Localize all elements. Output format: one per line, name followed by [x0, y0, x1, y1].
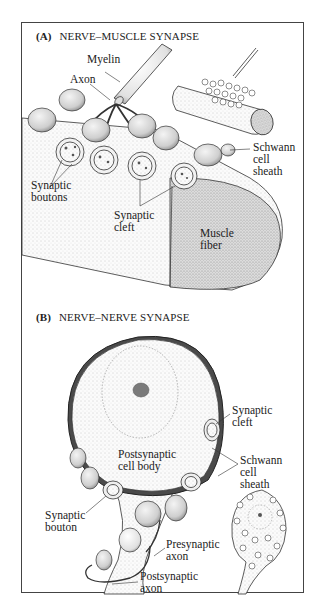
panel-a-heading: NERVE–MUSCLE SYNAPSE	[60, 30, 200, 42]
label-boutons-1: Synaptic	[31, 179, 71, 191]
label-schwann-b-1: Schwann	[240, 454, 282, 466]
label-schwann-b-3: sheath	[240, 478, 269, 490]
label-schwann-b-2: cell	[240, 466, 257, 478]
label-cleft-b-2: cleft	[232, 416, 252, 428]
label-bouton-b-1: Synaptic	[45, 509, 85, 521]
label-schwann-a-3: sheath	[253, 165, 282, 177]
label-muscle-1: Muscle	[200, 227, 234, 239]
label-bouton-b-2: bouton	[45, 521, 77, 533]
panel-a-title: (A)NERVE–MUSCLE SYNAPSE	[36, 30, 199, 42]
label-postsynaptic-2: axon	[140, 582, 162, 594]
label-boutons-2: boutons	[31, 191, 67, 203]
label-presynaptic-2: axon	[166, 550, 188, 562]
label-axon: Axon	[70, 73, 96, 85]
label-myelin: Myelin	[87, 53, 120, 65]
label-schwann-a-2: cell	[253, 153, 270, 165]
panel-a-art	[22, 44, 282, 290]
panel-b-title: (B)NERVE–NERVE SYNAPSE	[36, 311, 190, 323]
label-muscle-2: fiber	[200, 239, 222, 251]
label-cleft-a-2: cleft	[114, 221, 134, 233]
label-schwann-a-1: Schwann	[253, 141, 295, 153]
label-presynaptic-1: Presynaptic	[166, 538, 220, 550]
label-cleft-b-1: Synaptic	[232, 404, 272, 416]
label-postsynaptic-1: Postsynaptic	[140, 570, 198, 582]
panel-a-letter: (A)	[36, 30, 52, 42]
label-cellbody-2: cell body	[118, 460, 160, 472]
label-cleft-a-1: Synaptic	[114, 209, 154, 221]
panel-b-heading: NERVE–NERVE SYNAPSE	[59, 311, 190, 323]
panel-b-letter: (B)	[36, 311, 51, 323]
label-cellbody-1: Postsynaptic	[118, 448, 176, 460]
